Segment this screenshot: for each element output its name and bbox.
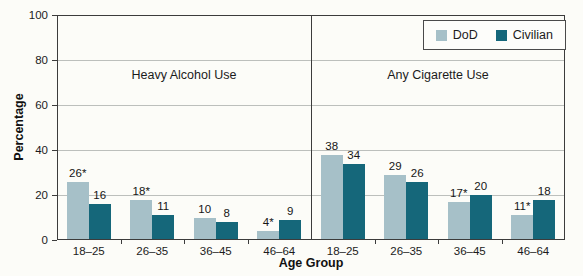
bar-civilian bbox=[406, 182, 428, 241]
legend: DoDCivilian bbox=[423, 20, 566, 50]
bar-dod bbox=[321, 155, 343, 241]
x-tick-label: 26–35 bbox=[117, 244, 187, 258]
bar-value-label: 11 bbox=[157, 200, 169, 213]
bar-dod bbox=[257, 231, 279, 240]
y-tick bbox=[52, 15, 57, 16]
x-boundary-tick bbox=[184, 240, 185, 244]
bar-value-label: 26* bbox=[69, 167, 86, 180]
bar-civilian bbox=[216, 222, 238, 240]
x-boundary-tick bbox=[438, 240, 439, 244]
bar-civilian bbox=[470, 195, 492, 240]
panel-title: Heavy Alcohol Use bbox=[57, 68, 311, 82]
legend-label: Civilian bbox=[513, 28, 553, 42]
bar-civilian bbox=[533, 200, 555, 241]
x-tick-label: 26–35 bbox=[371, 244, 441, 258]
x-tick-label: 36–45 bbox=[181, 244, 251, 258]
legend-swatch-icon bbox=[436, 30, 447, 41]
bar-value-label: 26 bbox=[411, 167, 424, 180]
bar-value-label: 18 bbox=[538, 185, 551, 198]
bar-value-label: 18* bbox=[133, 185, 150, 198]
y-tick bbox=[52, 240, 57, 241]
legend-item-civilian: Civilian bbox=[496, 28, 553, 42]
bar-dod bbox=[194, 218, 216, 241]
x-tick-label: 18–25 bbox=[54, 244, 124, 258]
y-tick-label: 20 bbox=[0, 188, 48, 202]
y-tick bbox=[52, 150, 57, 151]
x-boundary-tick bbox=[248, 240, 249, 244]
bar-value-label: 9 bbox=[287, 205, 293, 218]
x-tick-label: 18–25 bbox=[308, 244, 378, 258]
x-boundary-tick bbox=[121, 240, 122, 244]
x-axis-title: Age Group bbox=[57, 256, 565, 270]
legend-item-dod: DoD bbox=[436, 28, 478, 42]
bar-dod bbox=[384, 175, 406, 240]
bar-civilian bbox=[279, 220, 301, 240]
panel-title: Any Cigarette Use bbox=[311, 68, 565, 82]
y-tick-label: 60 bbox=[0, 98, 48, 112]
bar-dod bbox=[67, 182, 89, 241]
bar-civilian bbox=[152, 215, 174, 240]
x-boundary-tick bbox=[375, 240, 376, 244]
bar-value-label: 29 bbox=[389, 160, 402, 173]
bar-dod bbox=[448, 202, 470, 240]
bar-value-label: 4* bbox=[263, 216, 274, 229]
bar-value-label: 34 bbox=[347, 149, 360, 162]
bar-dod bbox=[130, 200, 152, 241]
y-tick-label: 40 bbox=[0, 143, 48, 157]
y-tick bbox=[52, 105, 57, 106]
bar-value-label: 11* bbox=[514, 200, 530, 213]
y-tick bbox=[52, 60, 57, 61]
bar-value-label: 16 bbox=[93, 189, 106, 202]
y-tick bbox=[52, 195, 57, 196]
bar-value-label: 10 bbox=[198, 203, 211, 216]
panel-divider bbox=[311, 15, 312, 240]
bar-value-label: 8 bbox=[224, 207, 230, 220]
bar-value-label: 20 bbox=[474, 180, 487, 193]
bar-civilian bbox=[343, 164, 365, 241]
legend-swatch-icon bbox=[496, 30, 507, 41]
x-tick-label: 46–64 bbox=[244, 244, 314, 258]
y-tick-label: 100 bbox=[0, 8, 48, 22]
y-tick-label: 0 bbox=[0, 233, 48, 247]
bar-civilian bbox=[89, 204, 111, 240]
x-tick-label: 46–64 bbox=[498, 244, 568, 258]
bar-chart-figure: Percentage Age Group DoDCivilian 0204060… bbox=[0, 0, 583, 276]
bar-value-label: 38 bbox=[325, 140, 338, 153]
x-tick-label: 36–45 bbox=[435, 244, 505, 258]
bar-dod bbox=[511, 215, 533, 240]
legend-label: DoD bbox=[453, 28, 478, 42]
bar-value-label: 17* bbox=[450, 187, 467, 200]
y-tick-label: 80 bbox=[0, 53, 48, 67]
x-boundary-tick bbox=[502, 240, 503, 244]
